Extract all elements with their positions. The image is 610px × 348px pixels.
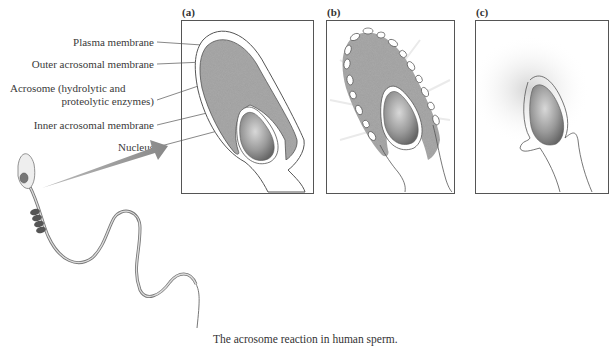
whole-sperm-illustration — [18, 154, 199, 328]
sperm-head-vesiculating — [330, 28, 452, 192]
figure-caption: The acrosome reaction in human sperm. — [213, 333, 398, 345]
sperm-head-reacted — [470, 35, 592, 192]
diagram-drawing — [0, 0, 610, 348]
zoom-arrow-icon — [42, 140, 168, 188]
sperm-head-intact — [195, 31, 305, 192]
